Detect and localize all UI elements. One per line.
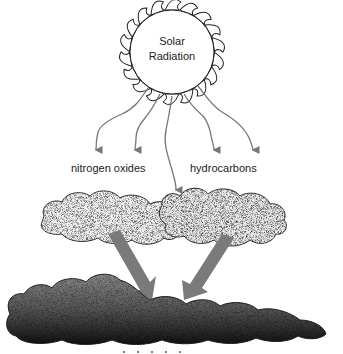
sun-label-line1: Solar bbox=[137, 34, 207, 49]
sun-label: Solar Radiation bbox=[137, 34, 207, 64]
nitrogen-oxides-label: nitrogen oxides bbox=[71, 162, 146, 174]
ray-icon bbox=[184, 94, 214, 150]
ray-icon bbox=[165, 96, 176, 190]
sun-label-line2: Radiation bbox=[137, 49, 207, 64]
ray-icon bbox=[135, 94, 160, 150]
ray-icon bbox=[96, 88, 148, 150]
result-cloud bbox=[7, 274, 326, 344]
hydrocarbons-label: hydrocarbons bbox=[190, 162, 257, 174]
cut-off-label bbox=[123, 351, 181, 353]
arrow-icon bbox=[182, 234, 234, 300]
ray-icon bbox=[198, 86, 253, 150]
